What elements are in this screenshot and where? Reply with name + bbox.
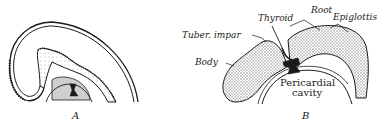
label-pericardial-line2: cavity: [280, 88, 335, 98]
panel-label-b: B: [302, 111, 309, 121]
label-body: Body: [195, 58, 218, 67]
label-pericardial: Pericardial cavity: [280, 78, 335, 98]
label-epiglottis: Epiglottis: [333, 13, 377, 22]
panel-label-a: A: [72, 111, 79, 121]
diagram-canvas: [0, 0, 381, 128]
label-root: Root: [311, 6, 332, 15]
panel-a-drawing: [10, 22, 138, 102]
label-tuber-impar: Tuber. impar: [182, 31, 241, 40]
label-thyroid: Thyroid: [258, 14, 293, 23]
